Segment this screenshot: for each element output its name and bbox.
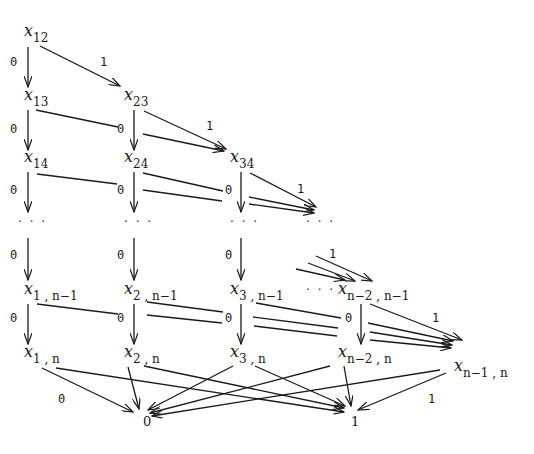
ellipsis: · · ·	[124, 215, 153, 229]
edge-x24-dots4-b	[143, 190, 222, 201]
node-xn2n: xn−2 , n	[338, 342, 392, 366]
edge-label: 0	[10, 55, 17, 69]
edge-label: 1	[432, 311, 439, 325]
node-xn1n: xn−1 , n	[454, 356, 508, 380]
edge-x3n1-right-a	[256, 303, 341, 318]
edge-label: 0	[345, 311, 352, 325]
node-x14: x14	[24, 147, 49, 171]
edge-x3n1-right-b	[253, 317, 338, 328]
terminal-one: 1	[351, 414, 359, 429]
node-x13: x13	[24, 85, 48, 109]
edge-label: 0	[117, 183, 124, 197]
edge-label: 0	[10, 248, 17, 262]
node-x24: x24	[124, 147, 149, 171]
edge-x24-dots4-a	[143, 173, 223, 191]
node-x1n: x1 , n	[24, 342, 60, 366]
edge-label: 0	[58, 392, 65, 406]
edge-label: 0	[225, 183, 232, 197]
edge-label: 1	[297, 182, 304, 196]
edge-x2n-0	[128, 367, 139, 409]
edge-label: 0	[117, 311, 124, 325]
node-x2n1: x2 , n−1	[124, 279, 178, 303]
edge-label: 1	[206, 119, 213, 133]
node-x1n1: x1 , n−1	[24, 279, 78, 303]
node-x34: x34	[230, 147, 255, 171]
edge-label: 0	[10, 183, 17, 197]
edge-x3n-0	[148, 366, 233, 410]
edge-label: 0	[117, 248, 124, 262]
edge-x2n1-right-b	[147, 315, 222, 323]
ellipsis: · · ·	[306, 215, 335, 229]
terminal-zero: 0	[143, 414, 151, 429]
edge-label: 0	[225, 248, 232, 262]
edge-x13-x34	[36, 110, 118, 127]
ellipsis: · · ·	[306, 283, 335, 297]
node-x2n: x2 , n	[124, 342, 160, 366]
diagram-canvas: x12x13x23x14x24x34x1 , n−1x2 , n−1x3 , n…	[0, 0, 534, 454]
bdd-diagram: x12x13x23x14x24x34x1 , n−1x2 , n−1x3 , n…	[0, 0, 534, 454]
edge-x34-dots4	[250, 173, 316, 207]
edge-x1n-1	[56, 368, 344, 412]
edge-label: 0	[10, 122, 17, 136]
node-x12: x12	[24, 21, 48, 45]
edge-x12-x23	[40, 46, 120, 86]
edge-label: 1	[100, 55, 107, 69]
ellipsis: · · ·	[230, 215, 259, 229]
edge-x14-dots4-a	[37, 174, 117, 184]
edge-xn2n-1	[344, 366, 351, 406]
edge-label: 1	[329, 247, 336, 261]
edge-x1n1-right	[37, 304, 118, 314]
edge-x3n1-right-c	[254, 326, 337, 336]
node-x3n: x3 , n	[230, 342, 266, 366]
edge-col4-xn1n-c	[370, 340, 451, 348]
edge-x1n-0	[42, 368, 133, 412]
edge-label: 0	[10, 311, 17, 325]
edge-label: 0	[225, 311, 232, 325]
node-xn2n1: xn−2 , n−1	[338, 279, 409, 303]
node-x23: x23	[124, 85, 148, 109]
ellipsis: · · ·	[18, 215, 47, 229]
edge-label: 1	[428, 392, 435, 406]
edge-x2n1-right-a	[147, 302, 223, 312]
node-x3n1: x3 , n−1	[230, 279, 284, 303]
edge-label: 0	[117, 122, 124, 136]
edge-into-xn2n1-b	[308, 263, 355, 281]
